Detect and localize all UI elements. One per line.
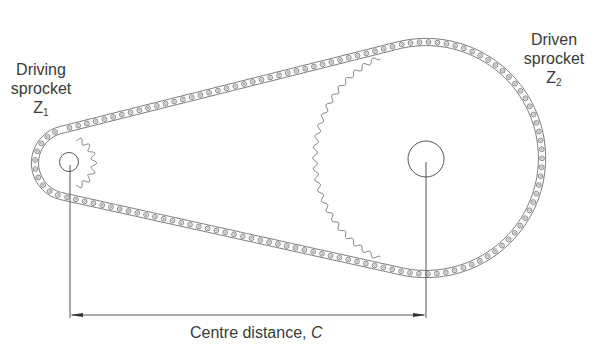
driving-sprocket-teeth — [76, 138, 96, 188]
driving-sprocket-label: Driving sprocket Z1 — [0, 60, 82, 122]
driving-symbol: Z1 — [0, 98, 82, 122]
centre-distance-text: Centre distance, — [190, 324, 311, 341]
driven-label-line2: sprocket — [512, 49, 596, 68]
driven-label-line1: Driven — [512, 30, 596, 49]
driven-symbol: Z2 — [512, 68, 596, 92]
centre-distance-label: Centre distance, C — [190, 324, 323, 342]
driving-sprocket-hub — [60, 153, 79, 172]
arrowhead-left-icon — [70, 313, 83, 317]
centre-distance-symbol: C — [311, 324, 323, 341]
driven-sprocket-label: Driven sprocket Z2 — [512, 30, 596, 92]
roller-chain — [31, 38, 545, 277]
driving-label-line1: Driving — [0, 60, 82, 79]
driven-sprocket-teeth — [313, 58, 381, 258]
driving-label-line2: sprocket — [0, 79, 82, 98]
arrowhead-right-icon — [413, 313, 426, 317]
